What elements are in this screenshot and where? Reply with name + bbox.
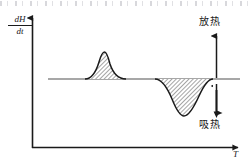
x-axis-label: T [233,150,238,159]
y-axis-label-denominator: dt [8,26,32,36]
endothermic-arrow-icon [213,83,220,118]
endothermic-trough [155,79,213,116]
y-axis-label: dH dt [8,15,32,36]
endothermic-label: 吸热 [199,120,220,130]
exothermic-label: 放热 [199,17,220,27]
dsc-thermogram-figure: dH dt T 放热 吸热 [0,0,248,166]
exothermic-peak [85,52,126,79]
y-axis-label-numerator: dH [8,15,32,26]
